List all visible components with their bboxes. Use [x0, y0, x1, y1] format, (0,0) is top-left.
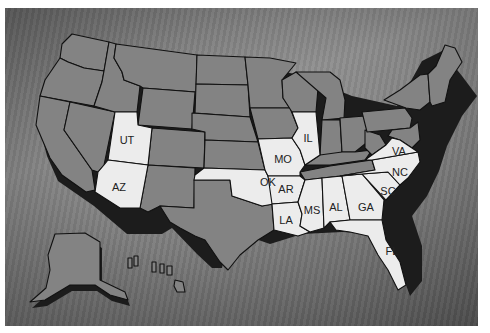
hawaii-island-1[interactable] — [128, 258, 132, 268]
label-ok: OK — [260, 176, 277, 188]
label-ms: MS — [304, 204, 321, 216]
label-ga: GA — [358, 201, 375, 213]
alaska-hawaii — [30, 233, 185, 308]
label-la: LA — [279, 214, 293, 226]
state-sd[interactable] — [195, 84, 250, 117]
state-nm[interactable] — [140, 165, 195, 212]
hawaii-island-3[interactable] — [152, 262, 156, 272]
hawaii-island-5[interactable] — [167, 266, 172, 275]
label-nc: NC — [392, 166, 408, 178]
label-al: AL — [329, 201, 342, 213]
label-az: AZ — [112, 181, 126, 193]
state-ny[interactable] — [384, 74, 430, 110]
state-ia[interactable] — [250, 108, 298, 139]
hawaii-island-4[interactable] — [160, 264, 164, 273]
us-map: UT AZ OK MO IL AR LA MS AL GA SC NC VA F… — [0, 0, 490, 333]
label-ut: UT — [120, 134, 135, 146]
label-ar: AR — [278, 183, 293, 195]
state-ak[interactable] — [30, 233, 128, 302]
hawaii-island-2[interactable] — [134, 256, 138, 266]
label-fl: FL — [386, 245, 399, 257]
state-co[interactable] — [148, 128, 205, 168]
state-ks[interactable] — [204, 140, 265, 170]
label-mo: MO — [274, 153, 292, 165]
state-nd[interactable] — [196, 55, 248, 85]
hawaii-big-island[interactable] — [174, 280, 185, 292]
label-va: VA — [392, 145, 407, 157]
label-il: IL — [303, 132, 312, 144]
state-wy[interactable] — [138, 88, 195, 129]
label-sc: SC — [380, 185, 395, 197]
